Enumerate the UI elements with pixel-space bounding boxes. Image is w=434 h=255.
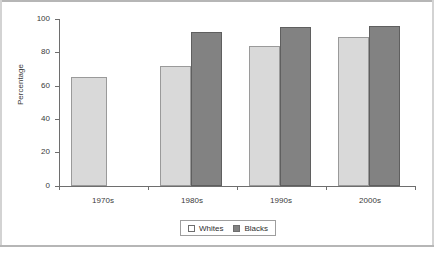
legend-entry-blacks: Blacks [233,224,268,233]
legend-swatch-whites-icon [188,225,195,232]
x-tick-mark-2 [237,186,238,190]
y-tick-mark-80 [55,52,59,53]
legend-label-whites: Whites [199,224,223,233]
bar-blacks-1980s [191,32,222,186]
legend-swatch-blacks-icon [233,225,240,232]
x-axis-label-2000s: 2000s [330,196,410,205]
x-axis-label-1970s: 1970s [63,196,143,205]
x-axis-label-1980s: 1980s [152,196,232,205]
figure-root: Percentage 0 20 40 60 80 100 1970s 1980s… [0,0,434,255]
y-axis-line [59,19,60,187]
y-tick-label-0: 0 [20,182,50,190]
bar-whites-2000s [338,37,369,186]
bar-whites-1990s [249,46,280,186]
bar-blacks-2000s [369,26,400,186]
y-tick-label-80: 80 [20,48,50,56]
y-tick-mark-100 [55,19,59,20]
y-tick-label-20: 20 [20,148,50,156]
legend-label-blacks: Blacks [244,224,268,233]
y-tick-label-60: 60 [20,82,50,90]
y-tick-label-40: 40 [20,115,50,123]
x-axis-label-1990s: 1990s [241,196,321,205]
bar-chart-plot-area: Percentage 0 20 40 60 80 100 1970s 1980s… [0,0,434,255]
bar-whites-1970s [71,77,107,186]
bar-blacks-1990s [280,27,311,186]
x-tick-mark-right-edge [415,186,416,190]
x-tick-mark-1 [148,186,149,190]
chart-legend: Whites Blacks [180,220,276,236]
x-tick-mark-3 [326,186,327,190]
bar-whites-1980s [160,66,191,186]
x-tick-mark-left-edge [59,186,60,190]
y-tick-mark-20 [55,152,59,153]
y-tick-label-100: 100 [20,15,50,23]
y-tick-mark-60 [55,86,59,87]
legend-entry-whites: Whites [188,224,223,233]
y-tick-mark-40 [55,119,59,120]
